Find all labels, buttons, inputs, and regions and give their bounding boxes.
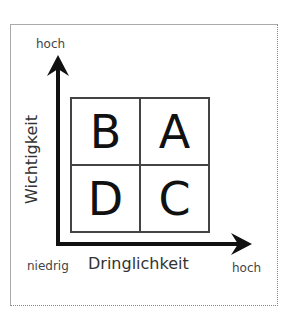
quadrant-b: B [71, 98, 140, 165]
x-axis-high-label: hoch [232, 261, 261, 275]
y-axis-label: Wichtigkeit [22, 115, 41, 204]
x-axis-arrow-icon [56, 233, 252, 255]
quadrant-grid: B A D C [70, 97, 210, 233]
quadrant-c: C [140, 165, 209, 232]
quadrant-a: A [140, 98, 209, 165]
y-axis-high-label: hoch [36, 37, 65, 51]
quadrant-d: D [71, 165, 140, 232]
x-axis-low-label: niedrig [27, 259, 69, 273]
x-axis-label: Dringlichkeit [88, 254, 189, 273]
y-axis-arrow-icon [47, 55, 69, 246]
